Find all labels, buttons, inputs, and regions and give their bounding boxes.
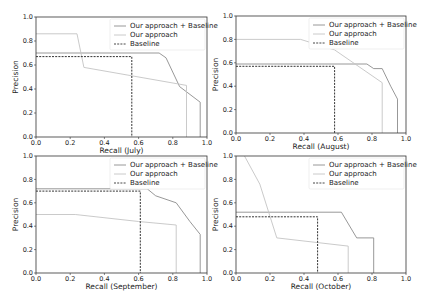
series-line-baseline — [236, 66, 335, 133]
x-tick-label: 0.2 — [65, 139, 75, 147]
y-tick-label: 0.6 — [23, 199, 33, 207]
y-tick-label: 0.0 — [223, 269, 233, 277]
series-line-our-approach-baseline — [236, 64, 398, 133]
y-tick-label: 0.8 — [223, 36, 233, 44]
y-tick-label: 0.0 — [223, 129, 233, 137]
y-tick-label: 0.2 — [23, 246, 33, 254]
legend-label: Baseline — [329, 179, 359, 187]
precision-recall-figure: 0.00.20.40.60.81.00.00.20.40.60.81.0Reca… — [0, 0, 431, 301]
y-tick-label: 0.8 — [23, 176, 33, 184]
y-axis-label: Precision — [211, 58, 220, 92]
x-tick-label: 1.0 — [401, 275, 411, 283]
y-tick-label: 1.0 — [223, 12, 233, 20]
y-tick-label: 0.4 — [23, 222, 33, 230]
x-tick-label: 1.0 — [202, 139, 212, 147]
x-tick-label: 0.2 — [265, 135, 275, 143]
y-tick-label: 0.6 — [223, 199, 233, 207]
x-tick-label: 0.2 — [65, 275, 75, 283]
y-tick-label: 0.0 — [23, 133, 33, 141]
legend-label: Baseline — [130, 40, 160, 48]
y-tick-label: 0.4 — [23, 85, 33, 93]
x-tick-label: 0.8 — [367, 135, 377, 143]
series-line-our-approach-baseline — [236, 212, 374, 273]
y-tick-label: 0.6 — [223, 59, 233, 67]
x-tick-label: 0.2 — [265, 275, 275, 283]
y-tick-label: 0.4 — [223, 82, 233, 90]
legend-label: Baseline — [329, 39, 359, 47]
y-tick-label: 0.6 — [23, 61, 33, 69]
legend: Our approach + BaselineOur approachBasel… — [309, 158, 417, 189]
y-tick-label: 1.0 — [223, 152, 233, 160]
series-line-our-approach-baseline — [36, 53, 200, 137]
series-line-baseline — [236, 217, 318, 273]
y-axis-label: Precision — [11, 198, 20, 232]
legend-label: Our approach + Baseline — [130, 22, 218, 30]
legend-label: Our approach — [329, 30, 377, 38]
legend-label: Our approach — [130, 31, 178, 39]
y-tick-label: 1.0 — [23, 13, 33, 21]
chart-panel-september: 0.00.20.40.60.81.00.00.20.40.60.81.0Reca… — [11, 152, 218, 291]
series-line-our-approach — [36, 215, 176, 274]
legend: Our approach + BaselineOur approachBasel… — [110, 158, 218, 189]
x-tick-label: 1.0 — [202, 275, 212, 283]
x-axis-label: Recall (July) — [99, 146, 143, 155]
legend-label: Baseline — [130, 179, 160, 187]
x-tick-label: 0.8 — [168, 139, 178, 147]
chart-panel-august: 0.00.20.40.60.81.00.00.20.40.60.81.0Reca… — [211, 12, 417, 151]
y-axis-label: Precision — [11, 60, 20, 94]
series-line-our-approach — [236, 39, 382, 133]
chart-panel-october: 0.00.20.40.60.81.00.00.20.40.60.81.0Reca… — [211, 152, 417, 291]
x-axis-label: Recall (August) — [293, 142, 350, 151]
legend: Our approach + BaselineOur approachBasel… — [309, 18, 417, 49]
x-axis-label: Recall (October) — [291, 282, 352, 291]
legend-label: Our approach — [329, 170, 377, 178]
x-axis-label: Recall (September) — [85, 282, 157, 291]
y-tick-label: 0.2 — [223, 246, 233, 254]
y-tick-label: 0.8 — [223, 176, 233, 184]
y-tick-label: 1.0 — [23, 152, 33, 160]
y-axis-label: Precision — [211, 198, 220, 232]
chart-panel-july: 0.00.20.40.60.81.00.00.20.40.60.81.0Reca… — [11, 13, 218, 155]
x-tick-label: 0.8 — [367, 275, 377, 283]
legend: Our approach + BaselineOur approachBasel… — [110, 19, 218, 50]
legend-label: Our approach + Baseline — [329, 161, 417, 169]
series-line-our-approach-baseline — [36, 189, 200, 273]
y-tick-label: 0.2 — [223, 106, 233, 114]
legend-label: Our approach + Baseline — [329, 21, 417, 29]
series-line-baseline — [36, 57, 132, 137]
legend-label: Our approach — [130, 170, 178, 178]
series-line-baseline — [36, 191, 140, 273]
y-tick-label: 0.2 — [23, 109, 33, 117]
y-tick-label: 0.4 — [223, 222, 233, 230]
y-tick-label: 0.8 — [23, 37, 33, 45]
x-tick-label: 0.8 — [168, 275, 178, 283]
y-tick-label: 0.0 — [23, 269, 33, 277]
x-tick-label: 1.0 — [401, 135, 411, 143]
legend-label: Our approach + Baseline — [130, 161, 218, 169]
